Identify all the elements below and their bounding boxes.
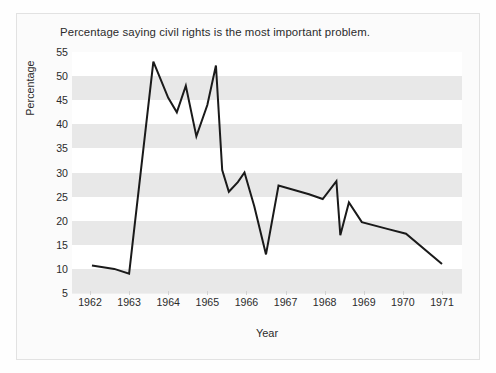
line-series-path <box>92 62 442 274</box>
y-axis-label-text: Percentage <box>24 28 36 148</box>
x-tick-mark <box>90 291 91 295</box>
x-tick-label: 1967 <box>264 296 308 308</box>
x-tick-label: 1971 <box>420 296 464 308</box>
x-tick-label: 1964 <box>146 296 190 308</box>
y-tick-label: 10 <box>38 264 68 274</box>
x-tick-label: 1965 <box>185 296 229 308</box>
y-axis-label: Percentage <box>24 28 36 148</box>
x-tick-label: 1969 <box>342 296 386 308</box>
y-tick-label: 25 <box>38 192 68 202</box>
x-tick-mark <box>364 291 365 295</box>
x-axis-label: Year <box>72 327 462 339</box>
x-axis-ticks: 1962196319641965196619671968196919701971 <box>72 296 462 316</box>
x-tick-label: 1963 <box>107 296 151 308</box>
y-tick-label: 55 <box>38 47 68 57</box>
x-tick-label: 1966 <box>224 296 268 308</box>
figure-container: Percentage saying civil rights is the mo… <box>0 0 496 373</box>
y-tick-label: 5 <box>38 288 68 298</box>
x-tick-mark <box>442 291 443 295</box>
y-tick-label: 40 <box>38 119 68 129</box>
x-tick-mark <box>403 291 404 295</box>
y-tick-label: 50 <box>38 71 68 81</box>
y-tick-label: 15 <box>38 240 68 250</box>
x-tick-label: 1962 <box>68 296 112 308</box>
chart-title: Percentage saying civil rights is the mo… <box>60 26 460 38</box>
line-series-svg <box>72 52 462 293</box>
y-axis-ticks: 555045403530252015105 <box>38 52 68 293</box>
x-tick-mark <box>246 291 247 295</box>
y-tick-label: 20 <box>38 216 68 226</box>
x-tick-mark <box>207 291 208 295</box>
x-tick-mark <box>286 291 287 295</box>
x-tick-mark <box>168 291 169 295</box>
plot-area <box>72 52 462 293</box>
x-tick-label: 1970 <box>381 296 425 308</box>
y-tick-label: 35 <box>38 143 68 153</box>
x-tick-mark <box>325 291 326 295</box>
y-tick-label: 30 <box>38 168 68 178</box>
x-tick-label: 1968 <box>303 296 347 308</box>
x-tick-mark <box>129 291 130 295</box>
y-tick-label: 45 <box>38 95 68 105</box>
